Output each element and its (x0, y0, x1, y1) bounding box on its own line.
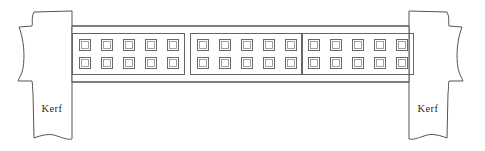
tooth (264, 40, 275, 51)
tooth (168, 40, 179, 51)
tooth (146, 58, 157, 69)
tooth (242, 58, 253, 69)
tooth (124, 58, 135, 69)
tooth (80, 40, 91, 51)
tooth (309, 58, 320, 69)
kerf-left-shape (18, 11, 72, 139)
tooth (146, 40, 157, 51)
tooth (264, 58, 275, 69)
kerf-right-label: Kerf (418, 103, 439, 114)
tooth (375, 40, 386, 51)
tooth (353, 58, 364, 69)
tooth (220, 58, 231, 69)
tooth (198, 58, 209, 69)
kerf-diagram: Kerf Kerf (0, 0, 485, 151)
tooth (80, 58, 91, 69)
tooth (124, 40, 135, 51)
tooth (102, 40, 113, 51)
tooth (309, 40, 320, 51)
tooth (242, 40, 253, 51)
tooth (102, 58, 113, 69)
tooth (397, 40, 408, 51)
tooth (331, 58, 342, 69)
kerf-left-label: Kerf (42, 103, 63, 114)
tooth (286, 58, 297, 69)
tooth (397, 58, 408, 69)
tooth (331, 40, 342, 51)
tooth (286, 40, 297, 51)
blade-beam (72, 26, 409, 82)
kerf-right-shape (409, 11, 463, 139)
tooth (168, 58, 179, 69)
tooth (375, 58, 386, 69)
tooth (220, 40, 231, 51)
diagram-canvas: Kerf Kerf (0, 0, 485, 151)
tooth (198, 40, 209, 51)
tooth (353, 40, 364, 51)
